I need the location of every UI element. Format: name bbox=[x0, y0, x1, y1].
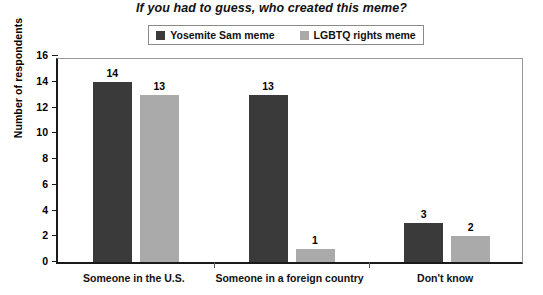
bar-1-1 bbox=[93, 82, 132, 262]
y-tick-label: 16 bbox=[18, 49, 48, 61]
y-tick-label: 8 bbox=[18, 152, 48, 164]
x-axis-category-label-2: Someone in a foreign country bbox=[215, 272, 363, 284]
chart-title: If you had to guess, who created this me… bbox=[0, 1, 543, 15]
y-tick-mark bbox=[52, 184, 58, 185]
legend-item-yosemite-sam-meme: Yosemite Sam meme bbox=[156, 29, 274, 41]
y-tick-mark bbox=[52, 235, 58, 236]
bar-3-2 bbox=[451, 236, 490, 262]
x-axis-separator-2 bbox=[369, 262, 370, 268]
legend-label-series-1: Yosemite Sam meme bbox=[170, 29, 274, 41]
bar-value-label-2-2: 1 bbox=[312, 234, 318, 246]
y-tick-label: 2 bbox=[18, 229, 48, 241]
y-tick-label: 0 bbox=[18, 255, 48, 267]
bar-2-2 bbox=[296, 249, 335, 262]
bar-value-label-1-1: 14 bbox=[106, 67, 118, 79]
bar-value-label-2-1: 13 bbox=[262, 80, 274, 92]
y-tick-mark bbox=[52, 132, 58, 133]
y-tick-mark bbox=[52, 55, 58, 56]
bar-value-label-1-2: 13 bbox=[153, 80, 165, 92]
x-axis-category-label-3: Don't know bbox=[417, 272, 473, 284]
legend-label-series-2: LGBTQ rights meme bbox=[314, 29, 416, 41]
plot-area: 0246810121416 141313132 bbox=[56, 58, 523, 264]
bar-value-label-3-2: 2 bbox=[468, 221, 474, 233]
bar-2-1 bbox=[249, 95, 288, 262]
bar-3-1 bbox=[404, 223, 443, 262]
bar-value-label-3-1: 3 bbox=[421, 208, 427, 220]
y-tick-mark bbox=[52, 158, 58, 159]
bar-1-2 bbox=[140, 95, 179, 262]
x-axis-category-label-1: Someone in the U.S. bbox=[83, 272, 185, 284]
y-tick-label: 10 bbox=[18, 126, 48, 138]
y-tick-label: 14 bbox=[18, 75, 48, 87]
legend-swatch-icon-series-1 bbox=[156, 31, 165, 40]
y-tick-mark bbox=[52, 107, 58, 108]
y-tick-mark bbox=[52, 81, 58, 82]
y-tick-label: 6 bbox=[18, 178, 48, 190]
legend-swatch-icon-series-2 bbox=[300, 31, 309, 40]
y-tick-mark bbox=[52, 261, 58, 262]
chart-legend: Yosemite Sam meme LGBTQ rights meme bbox=[148, 25, 424, 45]
y-tick-label: 12 bbox=[18, 101, 48, 113]
x-axis-separator-1 bbox=[214, 262, 215, 268]
y-tick-label: 4 bbox=[18, 204, 48, 216]
y-tick-mark bbox=[52, 210, 58, 211]
legend-item-lgbtq-rights-meme: LGBTQ rights meme bbox=[300, 29, 416, 41]
